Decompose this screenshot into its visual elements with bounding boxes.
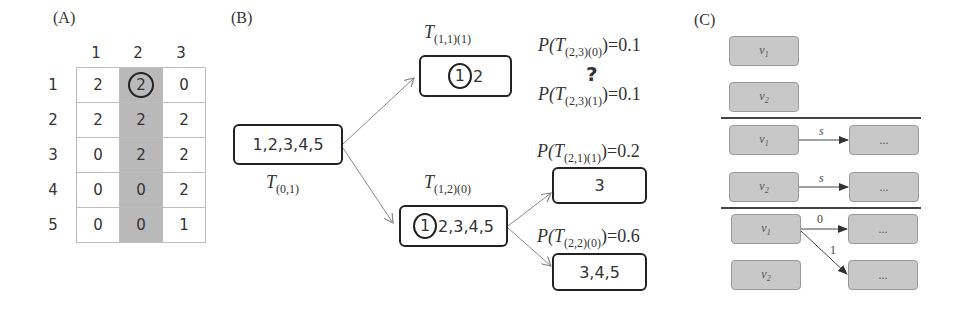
root-node-label: T(0,1) <box>266 172 299 197</box>
edge-1 <box>801 231 847 274</box>
subscript: 2 <box>765 186 769 195</box>
node-v1: v1 <box>731 214 801 244</box>
leaf-node-b-text: 3,4,5 <box>579 263 620 282</box>
prob-suffix: )=0.1 <box>602 35 641 55</box>
node-v1: v1 <box>729 125 799 155</box>
top-node-text: 2 <box>473 67 483 86</box>
t-symbol: T <box>424 172 434 192</box>
t-symbol: T <box>555 35 565 55</box>
subscript: (1,2)(0) <box>434 182 471 196</box>
subscript: (2,3)(1) <box>565 94 602 108</box>
node-v2: v2 <box>729 82 799 112</box>
node-v2: v2 <box>729 172 799 202</box>
edge-label-1: 1 <box>830 243 836 258</box>
arrow-mid-to-leaf-a <box>508 193 551 226</box>
prob-unknown-1: P(T(2,3)(0))=0.1 <box>538 35 641 60</box>
panel-b-label: (B) <box>231 9 252 27</box>
prob-suffix: )=0.1 <box>602 84 641 104</box>
target-node: ... <box>848 214 918 244</box>
t-symbol: T <box>554 226 564 246</box>
target-node: ... <box>848 260 918 290</box>
root-node-text: 1,2,3,4,5 <box>252 135 323 154</box>
t-symbol: T <box>555 84 565 104</box>
prob-prefix: P( <box>537 141 554 161</box>
subscript: 1 <box>765 139 769 148</box>
connector-layer <box>0 0 966 309</box>
prob-prefix: P( <box>538 84 555 104</box>
leaf-node-a-text: 3 <box>594 176 604 195</box>
circle-marker: 1 <box>448 63 472 89</box>
edge-label-0: 0 <box>817 212 823 227</box>
subscript: 1 <box>765 50 769 59</box>
prob-suffix: )=0.6 <box>601 226 640 246</box>
question-mark: ? <box>586 62 598 86</box>
arrow-root-to-top <box>343 78 414 144</box>
subscript: (2,1)(1) <box>564 151 601 165</box>
t-symbol: T <box>554 141 564 161</box>
edge-label-s: s <box>819 171 824 186</box>
section-divider-1 <box>721 117 921 119</box>
prob-leaf-a: P(T(2,1)(1))=0.2 <box>537 141 640 166</box>
mid-node-label: T(1,2)(0) <box>424 172 471 197</box>
subscript: 1 <box>767 228 771 237</box>
section-divider-2 <box>721 207 921 209</box>
t-symbol: T <box>266 172 276 192</box>
t-symbol: T <box>424 22 434 42</box>
top-node: 12 <box>419 55 512 97</box>
subscript: 2 <box>767 274 771 283</box>
subscript: (1,1)(1) <box>434 32 471 46</box>
prob-prefix: P( <box>538 35 555 55</box>
leaf-node-a: 3 <box>552 167 647 204</box>
node-v1: v1 <box>729 36 799 66</box>
subscript: (2,2)(0) <box>564 236 601 250</box>
subscript: (2,3)(0) <box>565 45 602 59</box>
prob-suffix: )=0.2 <box>601 141 640 161</box>
target-node: ... <box>849 125 919 155</box>
panel-c-label: (C) <box>694 11 715 29</box>
subscript: 2 <box>765 96 769 105</box>
subscript: (0,1) <box>276 182 299 196</box>
circle-marker: 1 <box>413 213 437 239</box>
arrow-root-to-mid <box>343 148 393 223</box>
root-node: 1,2,3,4,5 <box>233 124 343 165</box>
edge-label-s: s <box>819 124 824 139</box>
prob-unknown-2: P(T(2,3)(1))=0.1 <box>538 84 641 109</box>
mid-node: 12,3,4,5 <box>399 205 508 247</box>
top-node-label: T(1,1)(1) <box>424 22 471 47</box>
mid-node-text: 2,3,4,5 <box>438 217 494 236</box>
prob-prefix: P( <box>537 226 554 246</box>
target-node: ... <box>849 172 919 202</box>
node-v2: v2 <box>731 260 801 290</box>
leaf-node-b: 3,4,5 <box>552 253 647 291</box>
prob-leaf-b: P(T(2,2)(0))=0.6 <box>537 226 640 251</box>
